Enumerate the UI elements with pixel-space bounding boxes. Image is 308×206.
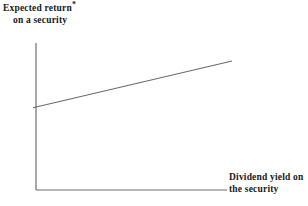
data-series-line [33,61,232,108]
y-axis-label-footnote-marker: * [72,0,76,9]
y-axis-label-line2: on a security [3,15,76,27]
y-axis-label: Expected return* on a security [3,3,76,26]
y-axis-label-line1: Expected return [3,3,72,13]
chart-figure: Expected return* on a security Dividend … [0,0,308,206]
x-axis-label: Dividend yield on the security [229,172,304,195]
x-axis-label-line1: Dividend yield on [229,172,304,182]
x-axis-label-line2: the security [229,184,304,196]
